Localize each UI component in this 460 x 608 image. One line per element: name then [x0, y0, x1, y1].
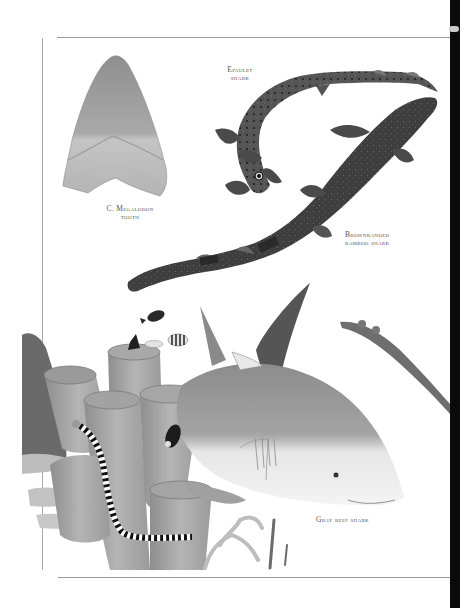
label-brownbanded-bamboo-shark: Brownbanded bamboo shark: [345, 231, 425, 247]
label-line: Gray reef shark: [316, 516, 406, 524]
gray-reef-shark-illustration: [177, 283, 404, 506]
label-epaulet-shark: Epaulet shark: [210, 66, 270, 82]
reef-fish-illustration: [128, 308, 188, 350]
book-page: C. Megalodon tooth Epaulet shark Brownba…: [0, 0, 460, 608]
label-line: bamboo shark: [345, 239, 425, 247]
partial-shark-tail-illustration: [340, 320, 450, 414]
brownbanded-bamboo-shark-illustration: [128, 97, 438, 291]
label-gray-reef-shark: Gray reef shark: [316, 516, 406, 524]
label-megalodon-tooth: C. Megalodon tooth: [85, 205, 175, 221]
branching-coral-illustration: [205, 518, 287, 568]
label-line: tooth: [85, 213, 175, 221]
label-line: shark: [210, 74, 270, 82]
megalodon-tooth-illustration: [63, 56, 167, 196]
